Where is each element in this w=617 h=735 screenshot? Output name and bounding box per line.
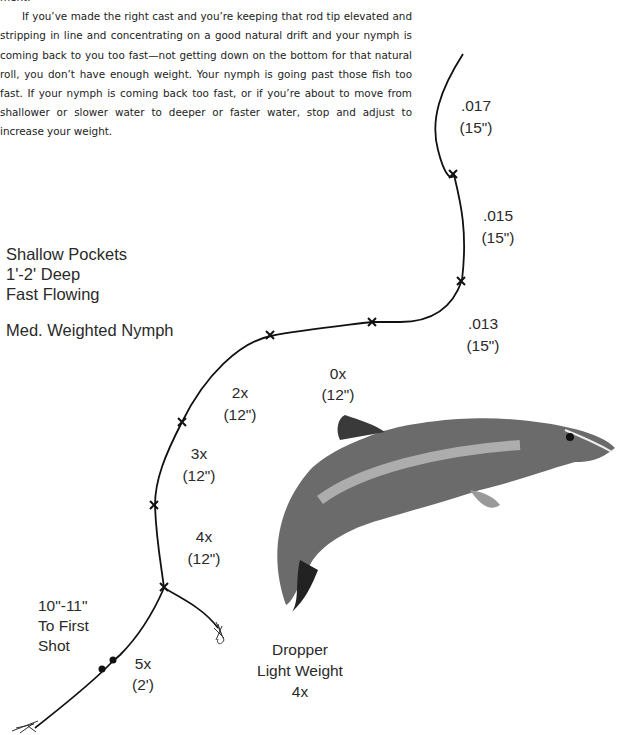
section-015-size: .015 bbox=[473, 206, 523, 226]
section-2x-length: (12") bbox=[215, 405, 265, 425]
split-shot-icon bbox=[99, 666, 106, 673]
section-0x-length: (12") bbox=[313, 385, 363, 405]
section-5x-size: 5x bbox=[118, 654, 168, 674]
section-5x-length: (2') bbox=[118, 675, 168, 695]
dropper-line bbox=[164, 588, 218, 628]
section-4x-size: 4x bbox=[179, 527, 229, 547]
section-3x-length: (12") bbox=[174, 466, 224, 486]
section-0x-size: 0x bbox=[313, 364, 363, 384]
condition-flow: Fast Flowing bbox=[6, 284, 100, 304]
section-4x-length: (12") bbox=[179, 549, 229, 569]
section-015-length: (15") bbox=[473, 228, 523, 248]
section-017-length: (15") bbox=[451, 118, 501, 138]
section-013-size: .013 bbox=[458, 314, 508, 334]
trout-illustration bbox=[277, 415, 615, 612]
condition-water-type: Shallow Pockets bbox=[6, 244, 127, 264]
shot-note-line2: To First bbox=[38, 616, 89, 636]
section-017-size: .017 bbox=[451, 96, 501, 116]
dropper-label: Dropper bbox=[245, 640, 355, 660]
shot-distance: 10"-11" bbox=[38, 596, 88, 616]
dropper-tippet: 4x bbox=[245, 682, 355, 702]
rig-type: Med. Weighted Nymph bbox=[6, 320, 174, 340]
section-013-length: (15") bbox=[458, 336, 508, 356]
shot-note-line3: Shot bbox=[38, 636, 70, 656]
condition-depth: 1'-2' Deep bbox=[6, 264, 80, 284]
leader-diagram bbox=[0, 0, 617, 735]
section-3x-size: 3x bbox=[174, 444, 224, 464]
split-shot-icon bbox=[110, 657, 117, 664]
point-fly-icon bbox=[12, 721, 38, 733]
section-2x-size: 2x bbox=[215, 383, 265, 403]
dropper-weight: Light Weight bbox=[245, 661, 355, 681]
